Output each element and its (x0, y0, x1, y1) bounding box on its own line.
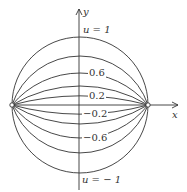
label-0.2: 0.2 (88, 91, 106, 101)
label-minus-0.6: −0.6 (82, 133, 108, 143)
arc-u-0.2 (12, 96, 148, 105)
focus-left-point (10, 103, 14, 107)
label-0.6: 0.6 (88, 68, 106, 78)
label-u-1: u = 1 (82, 25, 112, 35)
x-axis-label: x (172, 110, 178, 120)
label-minus-0.2: −0.2 (82, 109, 108, 119)
arc-upper-2 (12, 56, 148, 105)
focus-right-point (146, 103, 150, 107)
arc-u-minus-0.2 (12, 105, 148, 114)
label-u-minus-1: u = − 1 (81, 175, 122, 185)
arc-lower-4 (12, 105, 148, 153)
y-axis-label: y (83, 7, 89, 17)
